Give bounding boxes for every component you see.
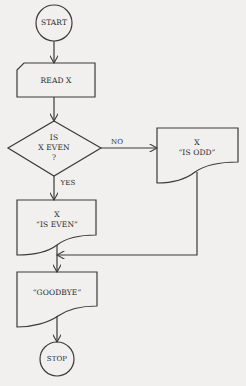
even-line2: “IS EVEN” bbox=[36, 220, 78, 230]
odd-line2: “IS ODD” bbox=[178, 148, 215, 158]
no-label: NO bbox=[111, 137, 123, 147]
decision-line1: IS bbox=[50, 133, 58, 143]
decision-line3: ? bbox=[52, 153, 56, 163]
decision-line2: X EVEN bbox=[38, 143, 69, 153]
start-label: START bbox=[41, 18, 67, 28]
stop-label: STOP bbox=[47, 354, 67, 364]
goodbye-label: “GOODBYE” bbox=[33, 288, 82, 298]
flowchart-canvas: START READ X IS X EVEN ? NO YES X “IS OD… bbox=[0, 0, 246, 386]
yes-label: YES bbox=[61, 178, 76, 188]
edge-odd-merge bbox=[57, 172, 197, 255]
odd-line1: X bbox=[194, 138, 199, 148]
even-line1: X bbox=[54, 210, 59, 220]
flowchart-graphics bbox=[0, 0, 246, 386]
read-label: READ X bbox=[41, 76, 72, 86]
